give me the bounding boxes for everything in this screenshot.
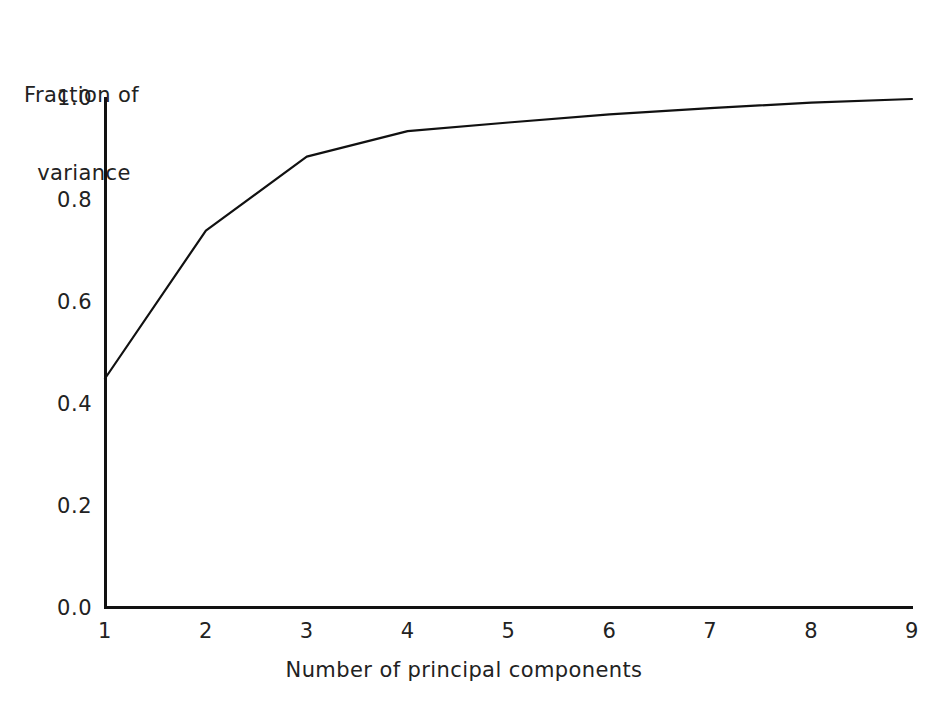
scree-plot-figure: Fraction of variance 0.0 0.2 0.4 0.6 0.8…: [0, 0, 928, 721]
variance-curve: [105, 99, 912, 378]
plot-area: [0, 0, 928, 721]
